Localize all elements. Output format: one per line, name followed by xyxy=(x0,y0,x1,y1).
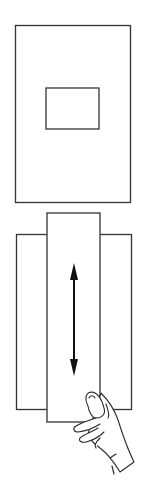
window-cutout xyxy=(46,88,99,129)
illustration xyxy=(0,0,146,483)
bottom-assembly xyxy=(17,213,135,474)
top-sheet xyxy=(16,26,131,203)
